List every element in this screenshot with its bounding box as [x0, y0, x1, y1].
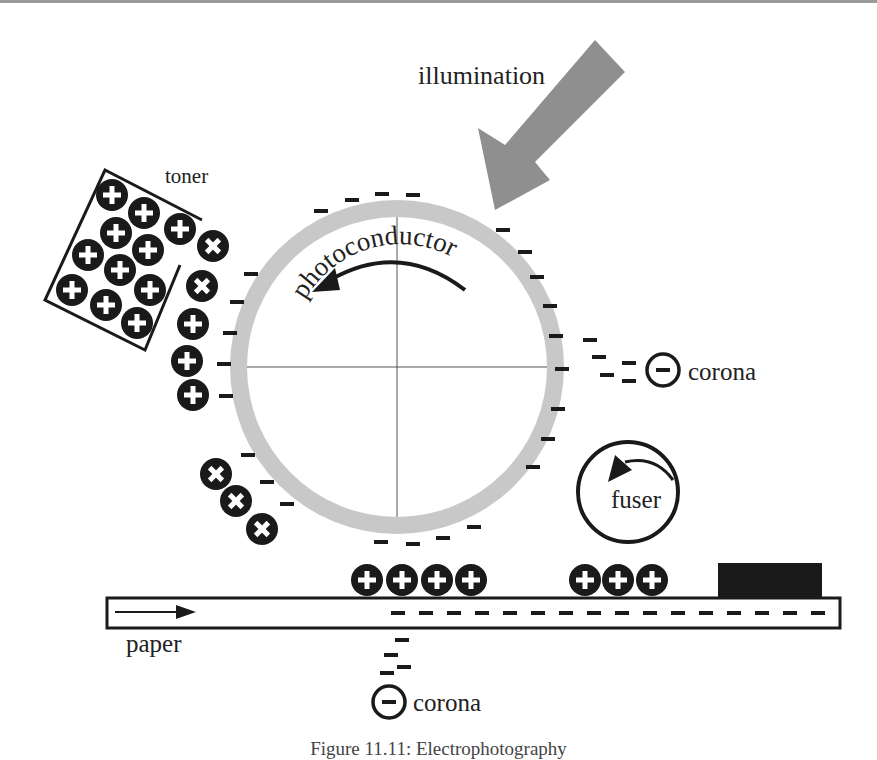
fused-toner-block: [718, 563, 822, 598]
paper-strip: [107, 598, 840, 628]
corona-bottom-label: corona: [413, 689, 481, 716]
illumination-label: illumination: [418, 61, 545, 90]
corona-bottom: [373, 638, 411, 718]
corona-right: [583, 338, 679, 386]
toner-label: toner: [165, 164, 208, 188]
fuser-label: fuser: [611, 486, 662, 513]
transferred-toner: [351, 564, 668, 596]
corona-right-label: corona: [688, 358, 756, 385]
paper-label: paper: [126, 630, 182, 657]
figure-caption: Figure 11.11: Electrophotography: [0, 738, 877, 760]
